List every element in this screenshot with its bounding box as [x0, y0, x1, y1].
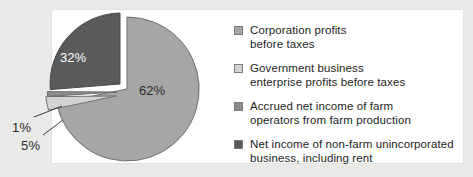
- legend-label-line1: Net income of non-farm unincorporated: [250, 138, 454, 152]
- legend-label-line1: Government business: [250, 62, 405, 76]
- chart-panel: 32% 62% 1% 5% Corporation profits before…: [52, 10, 463, 163]
- legend-swatch-icon: [234, 140, 243, 149]
- legend-swatch-icon: [234, 102, 243, 111]
- legend-item-nonfarm: Net income of non-farm unincorporated bu…: [234, 138, 459, 165]
- legend-swatch-icon: [234, 26, 243, 35]
- pie-value-nonfarm: 32%: [60, 50, 86, 65]
- pie-value-corporation: 62%: [139, 83, 165, 98]
- legend-item-government: Government business enterprise profits b…: [234, 62, 459, 89]
- legend-item-corporation: Corporation profits before taxes: [234, 24, 459, 51]
- legend-swatch-icon: [234, 64, 243, 73]
- legend-label-government: Government business enterprise profits b…: [250, 62, 405, 89]
- pie-chart: 32% 62% 1% 5%: [52, 10, 262, 163]
- legend-label-line2: business, including rent: [250, 152, 454, 166]
- legend-label-corporation: Corporation profits before taxes: [250, 24, 347, 51]
- legend-label-line2: before taxes: [250, 38, 347, 52]
- legend-label-farm: Accrued net income of farm operators fro…: [250, 100, 411, 127]
- legend-item-farm: Accrued net income of farm operators fro…: [234, 100, 459, 127]
- legend-label-nonfarm: Net income of non-farm unincorporated bu…: [250, 138, 454, 165]
- pie-value-government: 5%: [21, 138, 40, 153]
- legend-label-line1: Corporation profits: [250, 24, 347, 38]
- chart-legend: Corporation profits before taxes Governm…: [234, 24, 459, 176]
- legend-label-line2: operators from farm production: [250, 114, 411, 128]
- callout-line-government: [43, 120, 63, 135]
- legend-label-line1: Accrued net income of farm: [250, 100, 411, 114]
- pie-value-farm: 1%: [12, 120, 31, 135]
- legend-label-line2: enterprise profits before taxes: [250, 76, 405, 90]
